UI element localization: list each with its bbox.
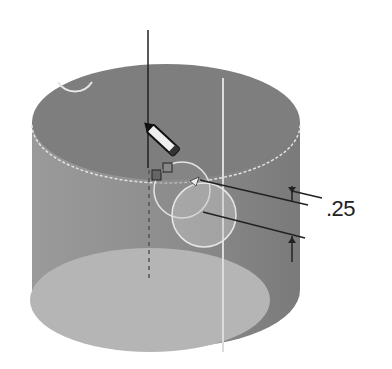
cad-scene: .25 — [0, 0, 392, 369]
cylinder-drawing — [0, 0, 392, 369]
cylinder-bottom-face — [30, 248, 270, 352]
dimension-value[interactable]: .25 — [326, 196, 355, 222]
relation-glyph-1 — [152, 170, 161, 180]
sketch-circle-large — [172, 183, 236, 247]
relation-glyph-2 — [163, 163, 172, 172]
